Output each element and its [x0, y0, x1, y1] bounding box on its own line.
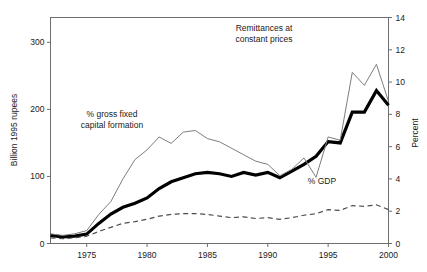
annotation-label: % gross fixedcapital formation: [81, 109, 144, 130]
y-tick-label: 100: [30, 171, 44, 181]
y-tick-label: 300: [30, 37, 44, 47]
y-tick-label: 200: [30, 104, 44, 114]
y2-tick-label: 4: [396, 174, 401, 184]
annotation-label: % GDP: [308, 176, 337, 186]
annotation-label: Remittances atconstant prices: [235, 23, 293, 44]
annotation-line: % GDP: [308, 176, 337, 186]
y2-tick-label: 14: [396, 13, 406, 23]
y2-tick-label: 2: [396, 206, 401, 216]
y2-tick-label: 12: [396, 45, 406, 55]
y2-tick-label: 0: [396, 239, 401, 249]
x-tick-label: 2000: [379, 250, 398, 260]
y-axis-left-title: Billion 1995 rupees: [9, 94, 19, 166]
annotation-line: constant prices: [235, 34, 292, 44]
x-tick-label: 1980: [138, 250, 157, 260]
x-tick-label: 1985: [198, 250, 217, 260]
y-tick-label: 0: [40, 239, 45, 249]
annotation-line: Remittances at: [236, 23, 293, 33]
x-tick-label: 1995: [319, 250, 338, 260]
annotation-line: capital formation: [81, 120, 144, 130]
y2-tick-label: 6: [396, 142, 401, 152]
annotation-line: % gross fixed: [86, 109, 137, 119]
y-axis-right-title: Percent: [410, 118, 420, 148]
remittances-line-chart: 197519801985199019952000 0100200300 0246…: [0, 0, 427, 272]
y2-tick-label: 10: [396, 77, 406, 87]
chart-background: [0, 0, 427, 272]
y2-tick-label: 8: [396, 109, 401, 119]
x-tick-label: 1990: [258, 250, 277, 260]
chart-container: 197519801985199019952000 0100200300 0246…: [0, 0, 427, 272]
x-tick-label: 1975: [77, 250, 96, 260]
